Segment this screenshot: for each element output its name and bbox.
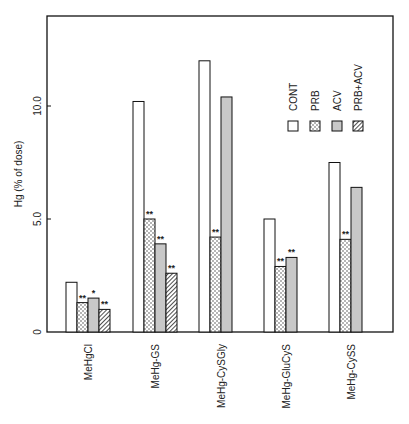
legend-swatch-cont [288, 121, 298, 131]
bar-mehg-cysgly-prb [210, 237, 221, 332]
significance-marker: ** [342, 229, 350, 239]
significance-marker: ** [277, 256, 285, 266]
legend-swatch-acv [332, 121, 342, 131]
legend-label: PRB+ACV [353, 64, 364, 111]
significance-marker: * [92, 288, 96, 298]
bar-mehg-gs-acv [155, 244, 166, 332]
significance-marker: ** [288, 247, 296, 257]
bar-mehg-cysgly-acv [221, 97, 232, 332]
legend-label: CONT [288, 83, 299, 111]
bar-chart: Hg (% of dose) 05.010.0 ****************… [0, 0, 409, 424]
bar-mehg-glucys-prb [275, 266, 286, 332]
legend-swatch-prb [310, 121, 320, 131]
legend-swatch-prb-acv [353, 121, 363, 131]
bar-mehg-cyss-cont [329, 163, 340, 333]
category-label: MeHg-GluCyS [281, 344, 292, 409]
bar-mehg-gs-cont [133, 101, 144, 332]
significance-marker: ** [101, 299, 109, 309]
y-ticks: 05.010.0 [32, 96, 51, 335]
category-label: MeHg-CySGly [216, 344, 227, 408]
significance-marker: ** [79, 293, 87, 303]
y-tick-label: 10.0 [32, 96, 43, 116]
bar-mehgcl-prb-acv [99, 309, 110, 332]
bar-mehgcl-acv [88, 298, 99, 332]
significance-marker: ** [157, 234, 165, 244]
bar-mehg-cyss-acv [351, 187, 362, 332]
bar-mehg-glucys-acv [286, 257, 297, 332]
significance-marker: ** [146, 209, 154, 219]
y-tick-label: 0 [32, 329, 43, 335]
y-tick-label: 5.0 [32, 212, 43, 226]
bar-mehg-gs-prb [144, 219, 155, 332]
significance-marker: ** [168, 263, 176, 273]
category-label: MeHg-GS [150, 344, 161, 389]
bar-mehgcl-prb [77, 303, 88, 332]
bar-mehg-cysgly-cont [199, 61, 210, 332]
category-labels: MeHgClMeHg-GSMeHg-CySGlyMeHg-GluCySMeHg-… [83, 344, 357, 409]
y-axis-title: Hg (% of dose) [13, 141, 24, 208]
bar-mehg-cyss-prb [340, 239, 351, 332]
category-label: MeHg-CySS [346, 344, 357, 400]
bar-mehg-glucys-cont [264, 219, 275, 332]
legend-label: ACV [332, 90, 343, 111]
significance-marker: ** [212, 227, 220, 237]
bar-mehgcl-cont [66, 282, 77, 332]
legend: CONTPRBACVPRB+ACV [288, 64, 364, 131]
category-label: MeHgCl [83, 344, 94, 380]
legend-label: PRB [310, 90, 321, 111]
bar-mehg-gs-prb-acv [166, 273, 177, 332]
